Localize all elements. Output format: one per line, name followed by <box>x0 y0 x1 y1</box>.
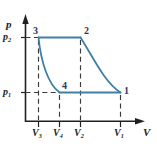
process-2-to-1-adiabat <box>81 38 121 93</box>
y-tick-label-p2: p2 <box>3 32 11 42</box>
x-axis-arrowhead <box>135 118 145 124</box>
y-axis-arrowhead <box>22 14 28 24</box>
x-tick-label-V3: V3 <box>32 128 42 138</box>
x-tick-label-V1-base: V <box>114 127 121 138</box>
x-tick-label-V2: V2 <box>74 128 84 138</box>
state-point-label-3: 3 <box>33 26 38 36</box>
x-axis-label: V <box>143 127 150 138</box>
x-tick-label-V2-base: V <box>74 127 81 138</box>
process-4-to-3-adiabat <box>39 38 60 93</box>
y-axis-label: p <box>6 19 12 30</box>
state-point-label-1: 1 <box>124 86 129 96</box>
state-point-label-4: 4 <box>62 81 67 91</box>
y-tick-label-p1: p1 <box>3 87 11 97</box>
x-tick-label-V2-sub: 2 <box>81 132 84 139</box>
x-tick-label-V4: V4 <box>53 128 63 138</box>
pv-diagram-figure: p V p2 p1 V3 V4 V2 V1 1 2 3 4 <box>0 0 157 149</box>
x-tick-label-V1: V1 <box>114 128 124 138</box>
x-tick-label-V1-sub: 1 <box>121 132 124 139</box>
x-tick-label-V4-base: V <box>53 127 60 138</box>
x-tick-label-V3-base: V <box>32 127 39 138</box>
x-tick-label-V3-sub: 3 <box>39 132 42 139</box>
x-tick-label-V4-sub: 4 <box>60 132 63 139</box>
cycle-path-group <box>39 38 121 93</box>
y-tick-label-p2-sub: 2 <box>8 36 11 43</box>
state-point-label-2: 2 <box>84 26 89 36</box>
y-tick-label-p1-sub: 1 <box>8 91 11 98</box>
